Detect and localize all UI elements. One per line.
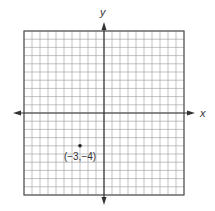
y-axis-label: y [99,6,107,18]
y-axis-down-arrow-icon [102,197,107,205]
x-axis-right-arrow-icon [187,111,195,116]
coordinate-plane: x y (−3,−4) [0,0,215,211]
data-points: (−3,−4) [64,144,96,162]
y-axis-up-arrow-icon [102,22,107,30]
data-point [78,144,82,148]
data-point-label: (−3,−4) [64,151,96,162]
x-axis-left-arrow-icon [13,111,21,116]
x-axis-label: x [199,107,206,119]
